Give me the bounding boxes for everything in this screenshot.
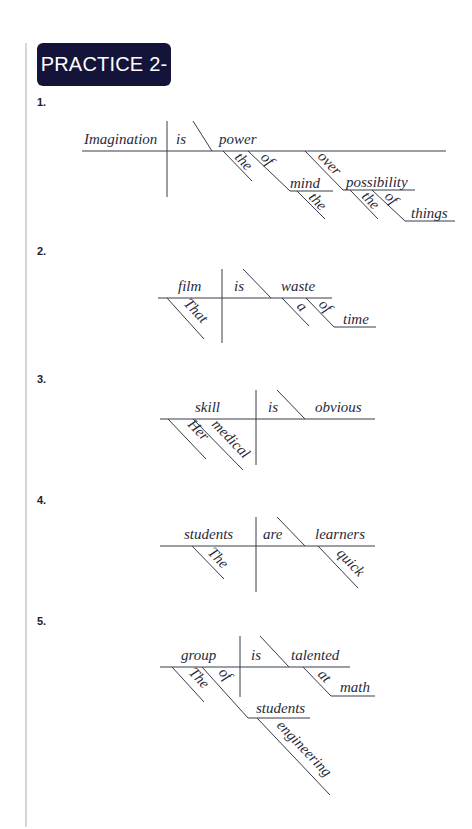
- word-verb: is: [176, 131, 186, 147]
- word-subject: film: [178, 278, 202, 294]
- word-subject: group: [181, 647, 217, 663]
- word-verb: is: [234, 278, 244, 294]
- word-complement: waste: [281, 278, 316, 294]
- word-obj-time: time: [343, 311, 369, 327]
- word-subject: students: [184, 526, 233, 542]
- word-mod-the-3: the: [359, 188, 383, 213]
- complement-slash: [260, 636, 289, 667]
- word-subject: Imagination: [83, 131, 157, 147]
- diagram-4: students are learners The quick: [160, 517, 375, 592]
- word-obj-mind: mind: [290, 175, 321, 191]
- word-complement: talented: [291, 647, 340, 663]
- word-mod-engineering: engineering: [274, 717, 336, 780]
- word-obj-possibility: possibility: [345, 174, 408, 190]
- word-prep-over: over: [315, 148, 345, 178]
- word-mod-the: The: [186, 664, 213, 692]
- word-verb: are: [263, 526, 283, 542]
- complement-slash: [243, 269, 271, 298]
- word-prep-of-2: of: [382, 188, 403, 209]
- word-mod-quick: quick: [334, 545, 368, 580]
- word-complement: obvious: [315, 399, 362, 415]
- word-verb: is: [268, 399, 278, 415]
- word-complement: power: [218, 131, 257, 147]
- word-verb: is: [251, 647, 261, 663]
- complement-slash: [277, 390, 305, 419]
- word-mod-the: The: [205, 544, 232, 572]
- word-obj-students: students: [256, 700, 305, 716]
- word-mod-the-2: the: [306, 189, 330, 214]
- word-subject: skill: [195, 399, 220, 415]
- word-prep-of: of: [316, 296, 337, 317]
- word-obj-things: things: [411, 205, 448, 221]
- word-mod-her: Her: [184, 415, 213, 444]
- word-complement: learners: [315, 526, 365, 542]
- word-obj-math: math: [340, 679, 370, 695]
- word-mod-the-1: the: [232, 149, 256, 174]
- diagram-2: film is waste That a of time: [158, 269, 376, 343]
- word-mod-medical: medical: [209, 416, 253, 461]
- diagram-5: group is talented The of students engine…: [160, 636, 375, 795]
- diagram-3: skill is obvious Her medical: [160, 390, 375, 470]
- word-mod-that: That: [181, 295, 212, 327]
- diagram-1: Imagination is power the of mind the ove…: [82, 121, 455, 221]
- complement-slash: [193, 121, 212, 151]
- word-prep-of-1: of: [258, 149, 279, 170]
